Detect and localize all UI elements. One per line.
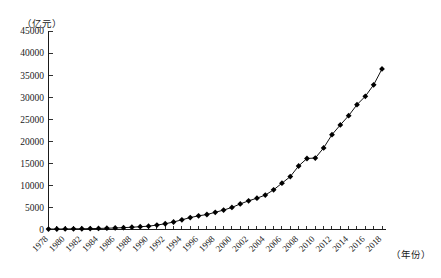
y-axis-tick-label: 25000 — [20, 115, 44, 125]
x-axis-unit-label-group: （年份） — [391, 249, 431, 260]
data-point-marker — [162, 221, 168, 227]
series-line — [49, 69, 383, 229]
data-point-marker — [262, 192, 268, 198]
y-axis-ticks — [49, 31, 53, 230]
data-point-marker — [204, 212, 210, 218]
data-point-marker — [187, 215, 193, 221]
x-axis-tick-label: 2002 — [230, 234, 250, 254]
x-axis-tick-label: 1984 — [80, 233, 100, 253]
x-axis-tick-label: 2018 — [364, 233, 384, 253]
data-point-marker — [146, 223, 152, 229]
y-axis-tick-label: 0 — [39, 225, 44, 235]
data-point-marker — [237, 201, 243, 207]
data-point-marker — [179, 217, 185, 223]
data-point-marker — [154, 222, 160, 228]
series-markers — [46, 66, 385, 232]
x-axis-tick-label: 1986 — [97, 233, 117, 253]
x-axis-tick-label: 2000 — [214, 233, 234, 253]
x-axis-tick-label: 1980 — [47, 233, 67, 253]
data-point-marker — [104, 225, 110, 231]
data-point-marker — [96, 226, 102, 232]
data-point-marker — [71, 226, 77, 232]
data-point-marker — [137, 224, 143, 230]
data-point-marker — [171, 219, 177, 225]
y-axis-tick-label: 35000 — [20, 71, 44, 81]
y-axis-tick-label: 30000 — [20, 93, 44, 103]
y-axis-tick-label: 15000 — [20, 159, 44, 169]
data-point-marker — [229, 205, 235, 211]
x-axis-tick-label: 1996 — [180, 233, 200, 253]
data-point-marker — [254, 195, 260, 201]
x-axis-tick-label: 2014 — [330, 233, 350, 253]
line-chart: （亿元） 05000100001500020000250003000035000… — [0, 0, 441, 278]
x-axis-tick-label: 2010 — [297, 233, 317, 253]
x-axis-tick-label: 1998 — [197, 233, 217, 253]
data-point-marker — [196, 213, 202, 219]
x-axis-tick-label: 1988 — [113, 233, 133, 253]
x-axis-tick-label: 2008 — [280, 233, 300, 253]
data-point-marker — [246, 198, 252, 204]
x-axis-tick-label: 1978 — [30, 233, 50, 253]
x-axis-tick-labels: 1978198019821984198619881990199219941996… — [30, 233, 384, 253]
x-axis-tick-label: 1990 — [130, 233, 150, 253]
y-axis-tick-labels: 0500010000150002000025000300003500040000… — [20, 26, 44, 235]
x-axis-tick-label: 2012 — [314, 234, 334, 254]
x-axis-tick-label: 1994 — [164, 233, 184, 253]
x-axis-tick-label: 2004 — [247, 233, 267, 253]
data-point-marker — [79, 226, 85, 232]
y-axis-tick-label: 45000 — [20, 26, 44, 36]
x-axis-unit-label: （年份） — [391, 249, 431, 260]
data-point-marker — [221, 207, 227, 213]
y-axis-tick-label: 20000 — [20, 137, 44, 147]
y-axis-tick-label: 40000 — [20, 48, 44, 58]
data-point-marker — [87, 226, 93, 232]
y-axis-tick-label: 5000 — [25, 203, 44, 213]
data-point-marker — [379, 66, 385, 72]
x-axis-tick-label: 2016 — [347, 233, 367, 253]
data-point-marker — [54, 226, 60, 232]
x-axis-tick-label: 1992 — [147, 234, 167, 254]
data-point-marker — [62, 226, 68, 232]
x-axis-tick-label: 1982 — [63, 234, 83, 254]
data-point-marker — [46, 226, 52, 232]
x-axis-tick-label: 2006 — [264, 233, 284, 253]
data-point-marker — [212, 209, 218, 215]
y-axis-tick-label: 10000 — [20, 181, 44, 191]
chart-container: （亿元） 05000100001500020000250003000035000… — [0, 0, 441, 278]
